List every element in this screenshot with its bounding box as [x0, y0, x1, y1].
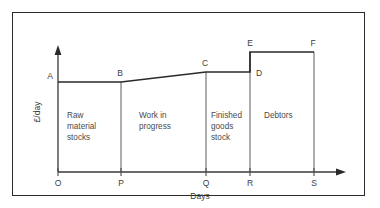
region-label-raw-material-line3: stocks — [67, 133, 90, 142]
chart-canvas: A B C D E F O P Q R S Days £/day Raw mat… — [0, 0, 380, 208]
region-label-work-in-progress-line1: Work in — [139, 111, 167, 120]
working-capital-cycle-figure: A B C D E F O P Q R S Days £/day Raw mat… — [0, 0, 380, 208]
point-label-b: B — [117, 68, 123, 78]
x-tick-label-r: R — [247, 178, 253, 188]
x-tick-label-o: O — [55, 178, 62, 188]
x-tick-label-q: Q — [203, 178, 210, 188]
x-tick-label-p: P — [118, 178, 124, 188]
region-label-raw-material-line1: Raw — [67, 111, 83, 120]
point-label-a: A — [47, 71, 53, 81]
x-axis-arrow-icon — [336, 169, 346, 176]
point-label-f: F — [310, 38, 315, 48]
region-label-debtors: Debtors — [264, 111, 293, 120]
region-label-finished-goods-line3: stock — [211, 133, 231, 142]
point-label-d: D — [256, 68, 262, 78]
point-label-e: E — [247, 38, 253, 48]
x-tick-label-s: S — [311, 178, 317, 188]
region-label-work-in-progress-line2: progress — [139, 122, 171, 131]
region-label-finished-goods-line1: Finished — [211, 111, 242, 120]
point-label-c: C — [202, 58, 208, 68]
region-label-raw-material-line2: material — [67, 122, 96, 131]
y-axis-title: £/day — [32, 101, 42, 123]
working-capital-profile-line — [58, 52, 314, 82]
y-axis-arrow-icon — [55, 45, 62, 55]
region-label-finished-goods-line2: goods — [211, 122, 233, 131]
x-axis-title: Days — [190, 191, 209, 201]
